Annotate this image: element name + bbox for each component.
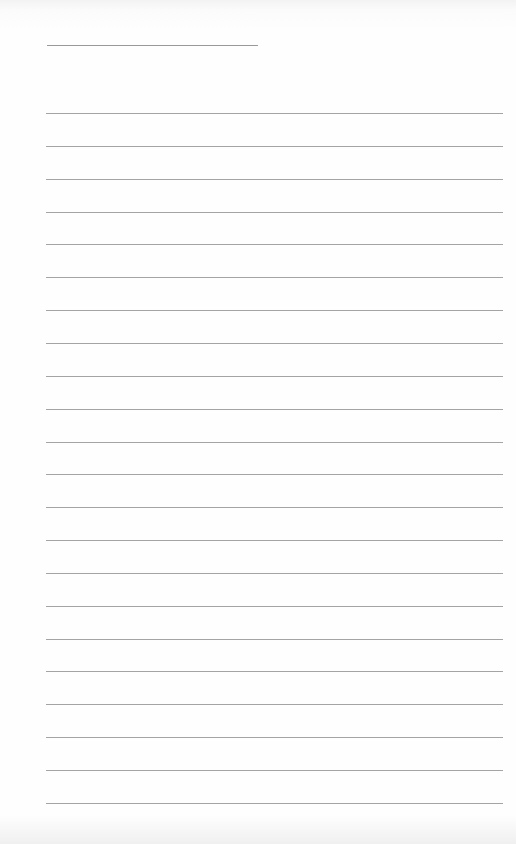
ruled-line (46, 540, 503, 541)
ruled-line (46, 277, 503, 278)
ruled-line (46, 343, 503, 344)
lined-paper (0, 0, 516, 844)
ruled-line (46, 376, 503, 377)
ruled-line (46, 639, 503, 640)
ruled-line (46, 573, 503, 574)
ruled-line (46, 507, 503, 508)
ruled-line (46, 146, 503, 147)
ruled-line (46, 606, 503, 607)
title-line (47, 45, 258, 46)
ruled-line (46, 803, 503, 804)
ruled-line (46, 113, 503, 114)
ruled-line (46, 671, 503, 672)
ruled-line (46, 212, 503, 213)
ruled-line (46, 179, 503, 180)
ruled-line (46, 310, 503, 311)
ruled-line (46, 244, 503, 245)
ruled-line (46, 409, 503, 410)
ruled-line (46, 442, 503, 443)
ruled-line (46, 737, 503, 738)
ruled-line (46, 704, 503, 705)
ruled-line (46, 474, 503, 475)
ruled-line (46, 770, 503, 771)
